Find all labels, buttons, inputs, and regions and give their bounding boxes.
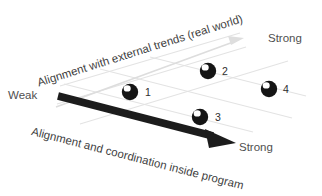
marker-4 <box>261 81 277 97</box>
marker-1 <box>122 84 138 100</box>
axis-label-strong-internal: Strong <box>239 142 273 154</box>
marker-3 <box>192 109 208 125</box>
axis-label-weak: Weak <box>8 90 37 102</box>
marker-label-1: 1 <box>145 87 151 98</box>
internal-arrowhead <box>205 129 236 148</box>
marker-label-4: 4 <box>283 84 289 95</box>
marker-label-3: 3 <box>215 112 221 123</box>
marker-label-2: 2 <box>222 66 228 77</box>
alignment-matrix-diagram: Weak Strong Strong Alignment with extern… <box>0 0 322 196</box>
axis-label-strong-external: Strong <box>268 33 302 45</box>
marker-2 <box>200 63 216 79</box>
